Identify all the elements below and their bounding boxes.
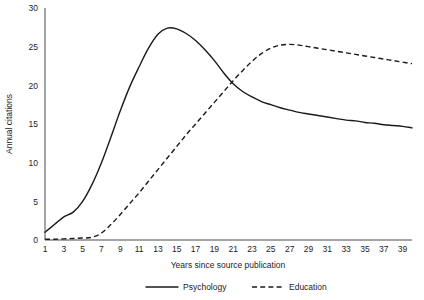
chart-legend: Psychology Education — [146, 282, 327, 292]
x-tick-9: 9 — [118, 244, 123, 254]
x-tick-15: 15 — [172, 244, 182, 254]
x-tick-25: 25 — [266, 244, 276, 254]
y-tick-0: 0 — [33, 235, 38, 245]
x-tick-1: 1 — [43, 244, 48, 254]
x-tick-21: 21 — [228, 244, 238, 254]
x-tick-7: 7 — [99, 244, 104, 254]
citation-age-chart: 051015202530 135791113151719212325272931… — [0, 0, 424, 300]
y-tick-5: 5 — [33, 197, 38, 207]
x-tick-35: 35 — [360, 244, 370, 254]
y-tick-20: 20 — [29, 81, 39, 91]
x-tick-39: 39 — [398, 244, 408, 254]
x-tick-23: 23 — [247, 244, 257, 254]
y-tick-30: 30 — [29, 3, 39, 13]
x-tick-3: 3 — [61, 244, 66, 254]
x-tick-29: 29 — [304, 244, 314, 254]
x-tick-11: 11 — [135, 244, 144, 254]
y-tick-25: 25 — [29, 42, 39, 52]
x-axis-tick-labels: 13579111315171921232527293133353739 — [43, 244, 408, 254]
x-tick-27: 27 — [285, 244, 295, 254]
chart-canvas: 051015202530 135791113151719212325272931… — [0, 0, 424, 300]
x-tick-19: 19 — [210, 244, 220, 254]
x-tick-31: 31 — [323, 244, 333, 254]
legend-label-education: Education — [289, 282, 327, 292]
x-tick-33: 33 — [341, 244, 351, 254]
legend-label-psychology: Psychology — [183, 282, 227, 292]
y-axis-title: Annual citations — [4, 94, 14, 154]
series-group — [45, 28, 412, 240]
y-axis-tick-labels: 051015202530 — [29, 3, 39, 245]
series-line-education — [45, 44, 412, 239]
x-tick-5: 5 — [80, 244, 85, 254]
series-line-psychology — [45, 28, 412, 233]
x-tick-37: 37 — [379, 244, 389, 254]
y-tick-15: 15 — [29, 119, 39, 129]
x-tick-17: 17 — [191, 244, 201, 254]
y-tick-10: 10 — [29, 158, 39, 168]
x-tick-13: 13 — [153, 244, 163, 254]
x-axis-title: Years since source publication — [171, 260, 286, 270]
